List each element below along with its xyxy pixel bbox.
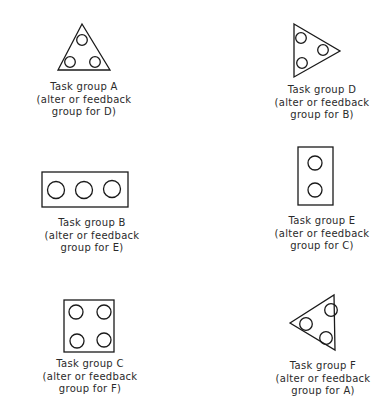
label-line: (alter or feedback <box>275 97 370 110</box>
triangle-right-icon <box>294 24 340 77</box>
label-line: group for A) <box>276 385 371 398</box>
member-circle-icon <box>65 57 76 68</box>
task-group-b-label: Task group B (alter or feedback group fo… <box>45 217 140 255</box>
label-line: (alter or feedback <box>275 228 370 241</box>
member-circle-icon <box>76 182 93 199</box>
rectangle-horizontal-icon <box>42 172 128 207</box>
label-title: Task group D <box>275 84 370 97</box>
task-groups-diagram <box>0 0 388 405</box>
task-group-c-label: Task group C (alter or feedback group fo… <box>43 358 138 396</box>
task-group-a-shape <box>58 24 110 70</box>
member-circle-icon <box>296 33 307 44</box>
task-group-b-shape <box>42 172 128 207</box>
label-title: Task group E <box>275 215 370 228</box>
label-line: (alter or feedback <box>276 373 371 386</box>
task-group-e-shape <box>298 147 333 205</box>
label-line: group for B) <box>275 109 370 122</box>
task-group-d-shape <box>294 24 340 77</box>
member-circle-icon <box>90 57 101 68</box>
label-line: group for F) <box>43 383 138 396</box>
label-line: group for D) <box>37 106 132 119</box>
label-title: Task group F <box>276 360 371 373</box>
task-group-f-shape <box>290 295 337 350</box>
member-circle-icon <box>325 304 338 317</box>
task-group-d-label: Task group D (alter or feedback group fo… <box>275 84 370 122</box>
member-circle-icon <box>97 333 111 347</box>
label-line: (alter or feedback <box>37 94 132 107</box>
label-title: Task group A <box>37 81 132 94</box>
member-circle-icon <box>69 305 83 319</box>
task-group-a-label: Task group A (alter or feedback group fo… <box>37 81 132 119</box>
label-line: (alter or feedback <box>45 230 140 243</box>
member-circle-icon <box>48 182 65 199</box>
member-circle-icon <box>297 58 308 69</box>
triangle-up-icon <box>58 24 110 70</box>
label-title: Task group B <box>45 217 140 230</box>
member-circle-icon <box>70 334 84 348</box>
label-line: group for C) <box>275 240 370 253</box>
label-title: Task group C <box>43 358 138 371</box>
member-circle-icon <box>300 318 313 331</box>
member-circle-icon <box>97 305 111 319</box>
task-group-c-shape <box>64 300 114 352</box>
task-group-e-label: Task group E (alter or feedback group fo… <box>275 215 370 253</box>
member-circle-icon <box>104 181 121 198</box>
member-circle-icon <box>320 332 333 345</box>
member-circle-icon <box>308 183 322 197</box>
label-line: (alter or feedback <box>43 371 138 384</box>
label-line: group for E) <box>45 242 140 255</box>
member-circle-icon <box>77 35 88 46</box>
member-circle-icon <box>318 45 329 56</box>
member-circle-icon <box>308 156 322 170</box>
task-group-f-label: Task group F (alter or feedback group fo… <box>276 360 371 398</box>
